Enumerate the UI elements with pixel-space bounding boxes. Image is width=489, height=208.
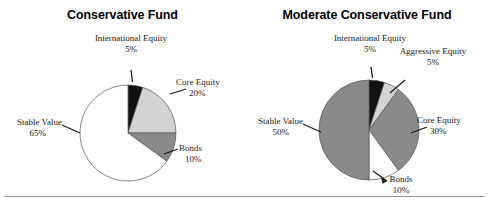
callout-label-stable-value: Stable Value [258, 116, 303, 126]
callout-stable-value: Stable Value 65% [2, 117, 62, 138]
pie-chart-moderate-conservative-fund [245, 0, 489, 196]
callout-pct-aggressive-equity: 5% [395, 57, 471, 68]
callout-core-equity: Core Equity 30% [417, 115, 485, 136]
callout-international-equity: International Equity 5% [86, 33, 176, 54]
callout-pct-bonds: 10% [377, 185, 425, 196]
callout-label-core-equity: Core Equity [176, 77, 220, 87]
callout-pct-core-equity: 20% [176, 88, 242, 99]
callout-aggressive-equity: Aggressive Equity 5% [395, 46, 471, 67]
pie-chart-figure: Conservative Fund International Equity 5… [0, 0, 489, 208]
leader-line-stable-value [303, 124, 321, 132]
callout-label-international-equity: International Equity [95, 33, 167, 43]
footer-divider [4, 196, 485, 197]
callout-pct-bonds: 10% [179, 154, 239, 165]
callout-label-aggressive-equity: Aggressive Equity [400, 46, 467, 56]
callout-pct-international-equity: 5% [86, 44, 176, 55]
pie-chart-conservative-fund [0, 0, 245, 196]
leader-line-stable-value [62, 125, 80, 133]
leader-line-international-equity [371, 67, 373, 78]
callout-bonds: Bonds 10% [377, 174, 425, 195]
leader-line-international-equity [131, 70, 133, 82]
chart-panel-conservative-fund: Conservative Fund International Equity 5… [0, 0, 245, 196]
callout-label-international-equity: International Equity [334, 33, 406, 43]
callout-label-bonds: Bonds [389, 174, 412, 184]
callout-core-equity: Core Equity 20% [176, 77, 242, 98]
callout-label-bonds: Bonds [179, 143, 202, 153]
callout-stable-value: Stable Value 50% [245, 116, 303, 137]
pie-slice-stable-value [319, 80, 369, 180]
callout-bonds: Bonds 10% [179, 143, 239, 164]
callout-pct-stable-value: 65% [2, 128, 62, 139]
callout-label-core-equity: Core Equity [417, 115, 461, 125]
callout-pct-stable-value: 50% [245, 127, 303, 138]
chart-panel-moderate-conservative-fund: Moderate Conservative Fund International… [245, 0, 489, 196]
callout-pct-core-equity: 30% [417, 126, 485, 137]
callout-label-stable-value: Stable Value [17, 117, 62, 127]
